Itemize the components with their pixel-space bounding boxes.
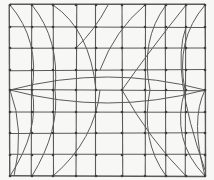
intersection-dot xyxy=(52,111,55,114)
top-left-arc-1-curve xyxy=(10,5,34,90)
top-right-arc-2-curve xyxy=(147,5,166,90)
intersection-dot xyxy=(52,4,55,7)
intersection-dot xyxy=(144,175,147,178)
horizontal-grid-line xyxy=(10,133,205,134)
intersection-dot xyxy=(95,47,98,50)
intersection-dot xyxy=(165,89,168,92)
grid-lines xyxy=(9,4,205,176)
intersection-dot xyxy=(121,89,124,92)
intersection-dot xyxy=(9,111,12,114)
horizontal-grid-line xyxy=(10,27,205,28)
intersection-dot xyxy=(144,154,147,157)
intersection-dot xyxy=(52,175,55,178)
intersection-dot xyxy=(95,69,98,72)
intersection-dot xyxy=(204,154,207,157)
intersection-dot xyxy=(52,47,55,50)
intersection-dot xyxy=(121,4,124,7)
intersection-dot xyxy=(75,111,78,114)
horizontal-grid-line xyxy=(10,90,205,91)
intersection-dot xyxy=(9,89,12,92)
intersection-dot xyxy=(165,175,168,178)
intersection-dot xyxy=(31,26,34,29)
intersection-dot xyxy=(204,175,207,178)
intersection-dot xyxy=(9,132,12,135)
intersection-dot xyxy=(9,26,12,29)
intersection-dot xyxy=(31,175,34,178)
intersection-dot xyxy=(9,47,12,50)
intersection-dot xyxy=(31,132,34,135)
lens-bottom-arc xyxy=(10,90,205,103)
intersection-dot xyxy=(165,47,168,50)
intersection-dot xyxy=(52,89,55,92)
intersection-dot xyxy=(185,47,188,50)
intersection-dot xyxy=(165,111,168,114)
pencil-grid-drawing xyxy=(0,0,214,180)
intersection-dot xyxy=(95,89,98,92)
intersection-dot xyxy=(185,175,188,178)
intersection-dot xyxy=(75,47,78,50)
intersection-dot xyxy=(52,26,55,29)
intersection-dot xyxy=(185,111,188,114)
intersection-dot xyxy=(204,132,207,135)
intersection-dot xyxy=(144,69,147,72)
intersection-dot xyxy=(121,69,124,72)
intersection-dot xyxy=(121,47,124,50)
intersection-dot xyxy=(31,111,34,114)
intersection-dot xyxy=(75,4,78,7)
intersection-dot xyxy=(144,26,147,29)
intersection-dot xyxy=(9,69,12,72)
intersection-dot xyxy=(185,26,188,29)
lens-top-arc xyxy=(10,77,205,90)
intersection-dot xyxy=(95,154,98,157)
intersection-dot xyxy=(165,69,168,72)
intersection-dot xyxy=(31,69,34,72)
intersection-dot xyxy=(144,132,147,135)
horizontal-grid-line xyxy=(10,70,205,71)
intersection-dot xyxy=(31,4,34,7)
intersection-dot xyxy=(144,111,147,114)
sketch-canvas: Hand-drawn pencil grid sketch with curve… xyxy=(0,0,214,180)
intersection-dot xyxy=(75,175,78,178)
intersection-dot xyxy=(185,69,188,72)
intersection-dot xyxy=(75,154,78,157)
intersection-dot xyxy=(9,175,12,178)
horizontal-grid-line xyxy=(10,176,205,177)
intersection-dot xyxy=(204,69,207,72)
intersection-dot xyxy=(121,132,124,135)
intersection-dot xyxy=(165,26,168,29)
intersection-dot xyxy=(204,89,207,92)
intersection-dot xyxy=(52,69,55,72)
intersection-dot xyxy=(165,154,168,157)
intersection-dot xyxy=(144,4,147,7)
intersection-dot xyxy=(75,69,78,72)
intersection-dot xyxy=(75,132,78,135)
intersection-dot xyxy=(185,4,188,7)
intersection-dot xyxy=(121,111,124,114)
intersection-dot xyxy=(185,154,188,157)
intersection-dot xyxy=(75,89,78,92)
intersection-dot xyxy=(31,89,34,92)
intersection-dot xyxy=(204,47,207,50)
intersection-dot xyxy=(95,175,98,178)
intersection-dot xyxy=(121,175,124,178)
intersection-dot xyxy=(75,26,78,29)
intersection-dot xyxy=(204,4,207,7)
intersection-dot xyxy=(121,154,124,157)
intersection-dot xyxy=(165,4,168,7)
intersection-dot xyxy=(204,111,207,114)
intersection-dot xyxy=(52,154,55,157)
intersection-dot xyxy=(121,26,124,29)
intersection-dot xyxy=(95,132,98,135)
intersection-dot xyxy=(31,47,34,50)
intersection-dot xyxy=(144,47,147,50)
intersection-dot xyxy=(9,4,12,7)
intersection-dot xyxy=(165,132,168,135)
intersection-dot xyxy=(144,89,147,92)
intersection-dot xyxy=(185,132,188,135)
intersection-dot xyxy=(204,26,207,29)
intersection-dot xyxy=(95,26,98,29)
intersection-dot xyxy=(31,154,34,157)
intersection-dot xyxy=(9,154,12,157)
intersection-dot xyxy=(95,4,98,7)
intersection-dot xyxy=(185,89,188,92)
